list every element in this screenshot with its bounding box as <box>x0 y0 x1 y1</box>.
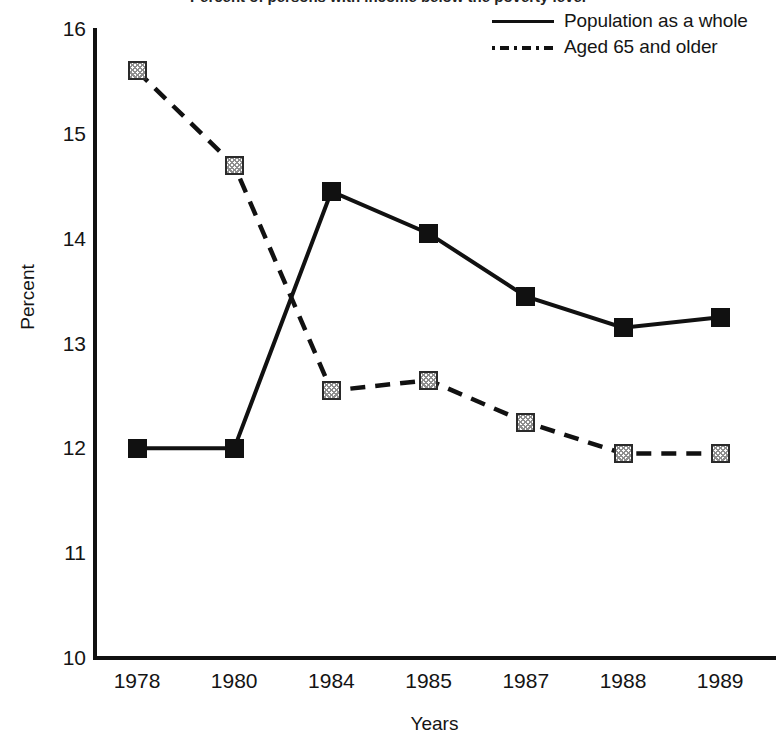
x-tick-1978: 1978 <box>92 670 182 691</box>
x-tick-1985: 1985 <box>384 670 474 691</box>
series-lines <box>0 0 776 750</box>
data-point-population-as-a-whole-1985 <box>419 224 438 243</box>
data-point-aged-65-and-older-1980 <box>225 156 244 175</box>
data-point-aged-65-and-older-1984 <box>322 381 341 400</box>
data-point-aged-65-and-older-1989 <box>711 444 730 463</box>
data-point-aged-65-and-older-1985 <box>419 371 438 390</box>
data-point-aged-65-and-older-1987 <box>516 413 535 432</box>
x-tick-1989: 1989 <box>675 670 765 691</box>
data-point-aged-65-and-older-1978 <box>128 61 147 80</box>
data-point-population-as-a-whole-1987 <box>516 287 535 306</box>
y-tick-10: 10 <box>28 647 86 668</box>
data-point-population-as-a-whole-1980 <box>225 439 244 458</box>
data-point-population-as-a-whole-1978 <box>128 439 147 458</box>
x-tick-1988: 1988 <box>578 670 668 691</box>
y-axis-title: Percent <box>17 247 39 347</box>
data-point-population-as-a-whole-1988 <box>614 318 633 337</box>
data-point-aged-65-and-older-1988 <box>614 444 633 463</box>
data-point-population-as-a-whole-1984 <box>322 182 341 201</box>
y-tick-12: 12 <box>28 437 86 458</box>
chart-plot-area: 10111213141516 1978198019841985198719881… <box>0 0 776 750</box>
x-tick-1980: 1980 <box>189 670 279 691</box>
x-tick-1984: 1984 <box>286 670 376 691</box>
x-axis-title: Years <box>93 713 776 735</box>
y-tick-14: 14 <box>28 228 86 249</box>
y-tick-16: 16 <box>28 18 86 39</box>
data-point-population-as-a-whole-1989 <box>711 308 730 327</box>
y-tick-11: 11 <box>28 542 86 563</box>
line-aged-65-and-older <box>137 71 720 454</box>
x-tick-1987: 1987 <box>481 670 571 691</box>
y-tick-15: 15 <box>28 123 86 144</box>
